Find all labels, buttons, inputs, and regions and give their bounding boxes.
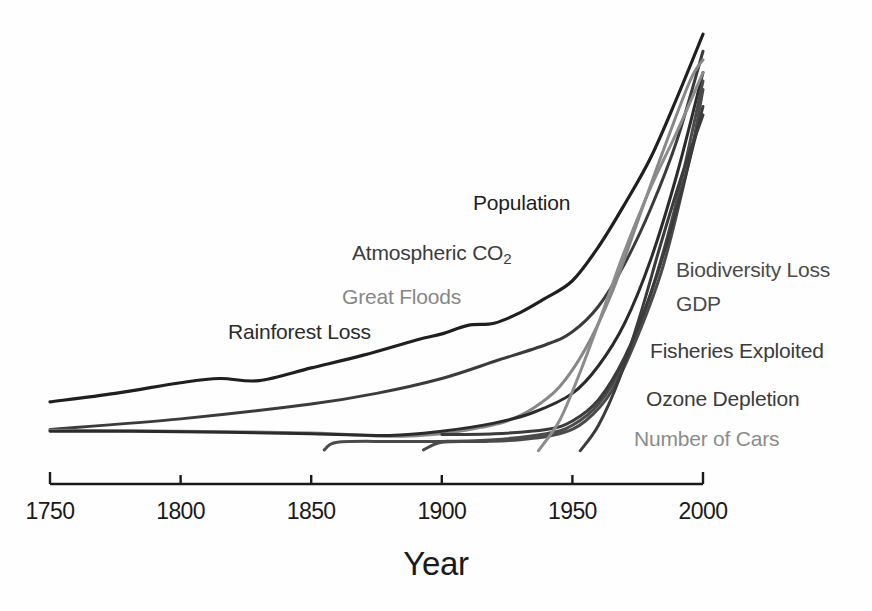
chart-container: 175018001850190019502000 PopulationAtmos… — [0, 0, 872, 611]
series-label-fisheries-exploited: Fisheries Exploited — [650, 340, 824, 361]
x-tick-label-1800: 1800 — [156, 498, 205, 525]
series-label-great-floods: Great Floods — [342, 286, 461, 307]
series-line-population — [50, 34, 703, 402]
x-tick-label-1750: 1750 — [26, 498, 75, 525]
series-label-population: Population — [473, 192, 570, 213]
x-tick-label-2000: 2000 — [679, 498, 728, 525]
series-line-fisheries-exploited — [442, 107, 703, 435]
x-tick-label-1950: 1950 — [548, 498, 597, 525]
x-axis — [50, 472, 703, 484]
x-tick-label-1850: 1850 — [287, 498, 336, 525]
series-label-biodiversity-loss: Biodiversity Loss — [676, 259, 830, 280]
series-label-gdp: GDP — [676, 293, 721, 314]
x-tick-label-1900: 1900 — [417, 498, 466, 525]
series-label-number-of-cars: Number of Cars — [634, 428, 779, 449]
series-label-atmospheric-co2: Atmospheric CO2 — [352, 242, 511, 266]
series-label-ozone-depletion: Ozone Depletion — [646, 388, 799, 409]
x-axis-title: Year — [0, 545, 872, 583]
series-label-rainforest-loss: Rainforest Loss — [228, 321, 371, 342]
